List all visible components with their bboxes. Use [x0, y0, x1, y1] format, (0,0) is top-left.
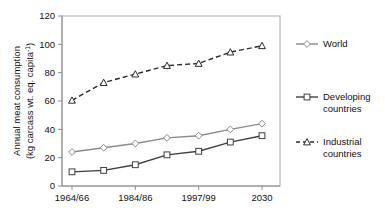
y-axis-title-line1: Annual meat consumption	[11, 46, 22, 156]
data-point-square	[304, 94, 310, 100]
y-axis-tick-label: 80	[44, 67, 55, 78]
legend-label: World	[323, 38, 348, 49]
legend-label: Developing	[323, 91, 371, 102]
data-point-square	[132, 162, 138, 168]
legend-label-line2: countries	[323, 103, 362, 114]
x-axis-tick-label: 1997/99	[181, 192, 215, 203]
meat-consumption-line-chart: 020406080100120 1964/661984/861997/99203…	[0, 0, 385, 223]
svg-text:(kg carcass wt. eq. capita-1): (kg carcass wt. eq. capita-1)	[24, 43, 35, 159]
y-axis-title-close: )	[24, 43, 35, 46]
y-axis-tick-label: 120	[39, 10, 55, 21]
y-axis-title-line2: (kg carcass wt. eq. capita	[24, 51, 35, 159]
legend-label-line2: countries	[323, 148, 362, 159]
y-axis-tick-label: 60	[44, 95, 55, 106]
x-axis-tick-label: 1984/86	[118, 192, 152, 203]
x-axis-tick-label: 2030	[251, 192, 272, 203]
data-point-square	[101, 168, 107, 174]
chart-figure: 020406080100120 1964/661984/861997/99203…	[0, 0, 385, 223]
y-axis-tick-label: 100	[39, 39, 55, 50]
data-point-square	[196, 148, 202, 154]
svg-text:Annual meat consumption: Annual meat consumption	[11, 46, 22, 156]
legend-label: Industrial	[323, 136, 362, 147]
y-axis-tick-label: 20	[44, 152, 55, 163]
data-point-square	[69, 169, 75, 175]
data-point-square	[164, 152, 170, 158]
x-axis-tick-label: 1964/66	[55, 192, 89, 203]
y-axis-tick-label: 40	[44, 124, 55, 135]
data-point-square	[259, 133, 265, 139]
y-axis-tick-label: 0	[50, 180, 55, 191]
data-point-square	[227, 139, 233, 145]
